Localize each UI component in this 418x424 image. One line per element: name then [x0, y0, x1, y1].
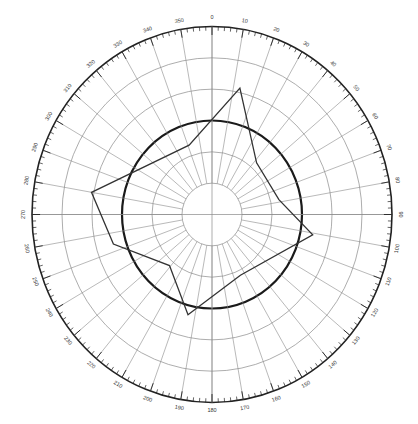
rim-tick — [150, 383, 153, 391]
rim-tick — [271, 383, 274, 391]
rim-tick — [295, 49, 297, 53]
rim-tick — [351, 328, 354, 331]
rim-tick — [367, 301, 370, 303]
rim-tick — [351, 99, 354, 102]
angle-label: 0 — [210, 14, 213, 20]
grid-spoke — [150, 244, 201, 391]
rim-tick — [242, 391, 243, 399]
polar-chart-svg: 0102030405060708090100110120130140150160… — [0, 0, 418, 424]
angle-label: 30 — [302, 40, 310, 48]
rim-tick — [344, 330, 350, 335]
rim-tick — [56, 304, 63, 308]
rim-tick — [122, 370, 126, 377]
grid-spoke — [231, 239, 327, 359]
rim-tick — [343, 89, 346, 92]
rim-tick — [310, 59, 312, 62]
rim-tick — [284, 43, 286, 47]
rim-tick — [168, 393, 169, 397]
rim-tick — [361, 304, 368, 308]
rim-tick — [106, 62, 108, 65]
rim-tick — [330, 75, 333, 78]
rim-tick — [83, 342, 86, 345]
rim-tick — [370, 295, 374, 297]
rim-tick — [70, 99, 73, 102]
rim-tick — [48, 289, 52, 291]
rim-tick — [358, 317, 361, 319]
rim-tick — [50, 295, 54, 297]
rim-tick — [334, 79, 337, 82]
grid-spokes — [32, 27, 392, 403]
rim-tick — [320, 359, 322, 362]
grid-spoke — [240, 150, 381, 204]
rim-tick — [66, 323, 69, 325]
polar-chart: 0102030405060708090100110120130140150160… — [0, 0, 418, 424]
rim-tick — [361, 121, 368, 125]
angle-label: 150 — [300, 379, 311, 389]
rim-tick — [298, 370, 302, 377]
angle-label: 10 — [241, 17, 248, 24]
rim-tick — [339, 342, 342, 345]
rim-tick — [315, 363, 317, 366]
angle-label: 270 — [20, 210, 26, 219]
rim-tick — [343, 338, 346, 341]
angle-label: 200 — [143, 394, 154, 403]
rim-tick — [133, 46, 135, 50]
grid-spoke — [74, 94, 189, 195]
grid-spoke — [181, 29, 207, 183]
angle-label: 220 — [86, 359, 97, 370]
angle-label: 50 — [352, 84, 361, 93]
grid-spoke — [74, 235, 189, 336]
angle-label: 290 — [30, 142, 39, 153]
grid-spoke — [217, 245, 243, 399]
angle-label: 120 — [370, 307, 380, 318]
rim-tick — [127, 377, 129, 381]
rim-tick — [344, 94, 350, 99]
rim-tick — [181, 29, 182, 37]
rim-tick — [122, 52, 126, 59]
rim-tick — [66, 104, 69, 106]
rim-tick — [96, 70, 101, 76]
angle-label: 70 — [385, 143, 393, 151]
angle-label: 260 — [24, 243, 32, 253]
grid-spoke — [242, 220, 390, 247]
angle-label: 170 — [240, 404, 250, 412]
rim-tick — [87, 347, 90, 350]
rim-tick — [53, 126, 56, 128]
rim-tick — [43, 276, 51, 279]
grid-spoke — [181, 245, 207, 399]
rim-tick — [242, 29, 243, 37]
rim-tick — [56, 121, 63, 125]
grid-spoke — [235, 235, 350, 336]
rim-tick — [334, 347, 337, 350]
rim-tick — [298, 52, 302, 59]
grid-spoke — [222, 38, 273, 185]
grid-spoke — [231, 70, 327, 190]
angle-label: 180 — [207, 407, 216, 413]
rim-tick — [63, 317, 66, 319]
rim-tick — [315, 62, 317, 65]
rim-tick — [35, 246, 43, 247]
rim-tick — [367, 126, 370, 128]
angle-label: 330 — [112, 39, 123, 49]
rim-tick — [139, 382, 141, 386]
grid-spoke — [150, 38, 201, 185]
rim-tick — [117, 55, 119, 59]
angle-label: 110 — [384, 276, 393, 286]
angle-label: 20 — [273, 26, 281, 34]
angle-label: 250 — [31, 276, 40, 287]
grid-spoke — [217, 29, 243, 183]
rim-tick — [78, 338, 81, 341]
rim-tick — [133, 380, 135, 384]
angle-label: 340 — [142, 25, 153, 34]
rim-tick — [111, 367, 113, 370]
rim-tick — [289, 380, 291, 384]
grid-spoke — [222, 244, 273, 391]
rim-tick — [373, 289, 377, 291]
rim-tick — [373, 138, 377, 140]
rim-tick — [101, 66, 103, 69]
angle-label: 160 — [271, 394, 282, 403]
angle-label: 300 — [44, 111, 54, 122]
rim-tick — [96, 352, 101, 358]
rim-tick — [322, 70, 327, 76]
rim-tick — [139, 43, 141, 47]
